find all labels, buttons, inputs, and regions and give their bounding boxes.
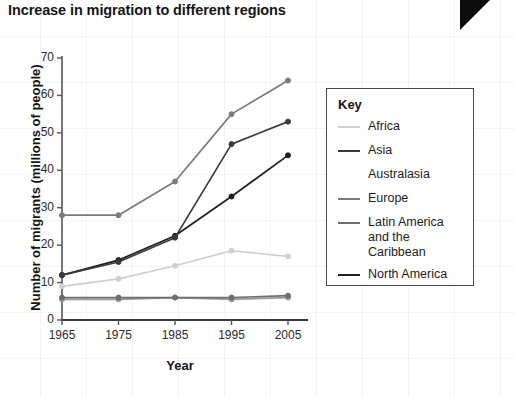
y-tick-label: 30: [28, 200, 54, 214]
legend-items: AfricaAsiaAustralasiaEuropeLatin America…: [338, 119, 467, 291]
series-europe: [60, 78, 291, 218]
x-tick-label: 1965: [38, 328, 86, 342]
x-tick-label: 2005: [264, 328, 312, 342]
legend-item-africa[interactable]: Africa: [338, 119, 467, 136]
y-tick-label: 0: [28, 312, 54, 326]
x-tick-label: 1975: [95, 328, 143, 342]
y-tick-label: 70: [28, 50, 54, 64]
x-tick-label: 1995: [208, 328, 256, 342]
legend-item-latin-america[interactable]: Latin America and the Caribbean: [338, 215, 467, 260]
legend-item-europe[interactable]: Europe: [338, 191, 467, 208]
legend-item-label: Asia: [368, 143, 392, 158]
legend-line-swatch-icon: [338, 167, 360, 181]
series-africa: [60, 248, 291, 289]
legend-line-swatch-icon: [338, 143, 360, 157]
y-tick-label: 10: [28, 275, 54, 289]
y-tick-label: 60: [28, 87, 54, 101]
legend-item-label: Europe: [368, 191, 408, 206]
legend-item-label: Latin America and the Caribbean: [368, 215, 467, 260]
legend-item-north-america[interactable]: North America: [338, 267, 467, 284]
legend-item-label: Australasia: [368, 167, 430, 182]
legend-item-label: North America: [368, 267, 447, 282]
y-tick-label: 20: [28, 237, 54, 251]
corner-triangle-marker: [460, 0, 490, 30]
legend-item-australasia[interactable]: Australasia: [338, 167, 467, 184]
legend-line-swatch-icon: [338, 119, 360, 133]
chart-axes: [61, 56, 308, 320]
legend-line-swatch-icon: [338, 215, 360, 229]
legend-title: Key: [338, 97, 362, 112]
legend-line-swatch-icon: [338, 191, 360, 205]
chart-legend: Key AfricaAsiaAustralasiaEuropeLatin Ame…: [326, 88, 474, 286]
y-tick-label: 40: [28, 162, 54, 176]
y-tick-label: 50: [28, 125, 54, 139]
x-tick-label: 1985: [151, 328, 199, 342]
legend-line-swatch-icon: [338, 267, 360, 281]
legend-item-asia[interactable]: Asia: [338, 143, 467, 160]
legend-item-label: Africa: [368, 119, 400, 134]
